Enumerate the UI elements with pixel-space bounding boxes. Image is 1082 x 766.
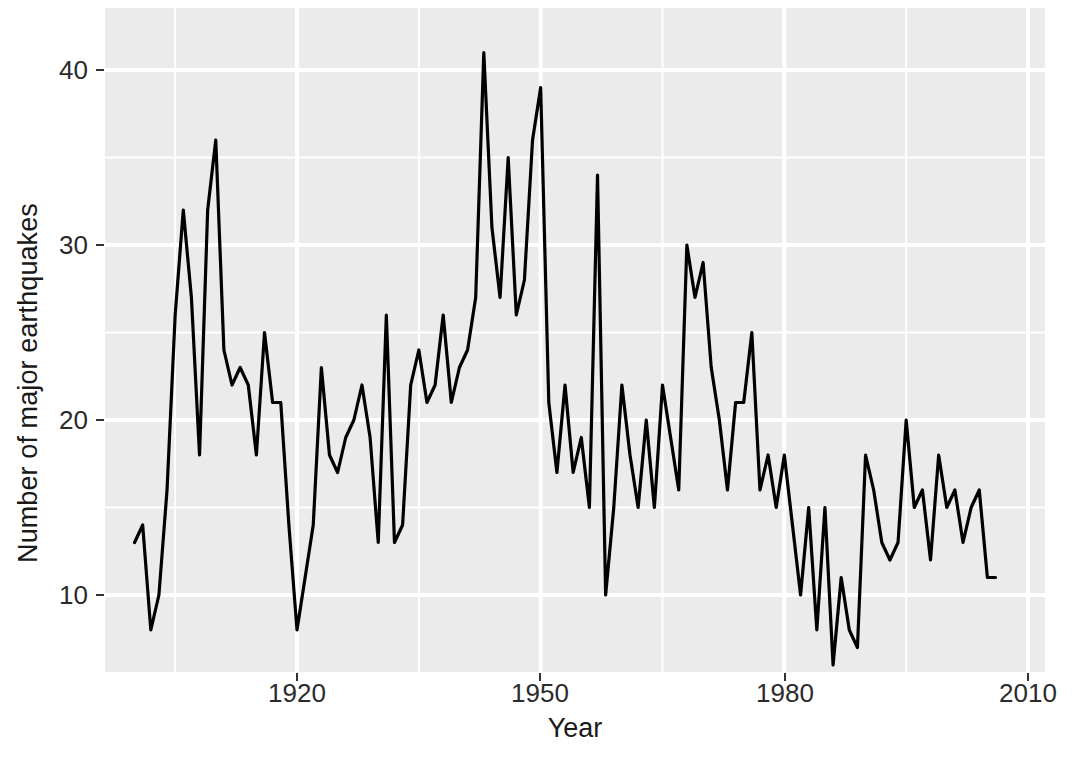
y-tick-label-10: 10 [36,580,88,611]
y-axis-tick-labels: 40 30 20 10 [36,0,88,766]
x-tick-label-1980: 1980 [756,678,814,709]
y-tick-mark-10 [96,594,104,596]
x-axis-title: Year [105,706,1045,750]
chart-figure: Number of major earthquakes 40 30 20 10 … [0,0,1082,766]
plot-area [105,8,1045,672]
y-tick-label-40: 40 [36,55,88,86]
y-tick-mark-30 [96,244,104,246]
y-tick-mark-40 [96,69,104,71]
plot-panel [105,8,1045,672]
y-tick-label-20: 20 [36,405,88,436]
x-tick-label-2010: 2010 [999,678,1057,709]
x-tick-label-1950: 1950 [511,678,569,709]
gridlines-major [105,8,1045,672]
earthquake-series-line [135,53,996,666]
gridlines-minor [105,8,1045,672]
x-tick-label-1920: 1920 [268,678,326,709]
y-tick-label-30: 30 [36,230,88,261]
y-tick-mark-20 [96,419,104,421]
